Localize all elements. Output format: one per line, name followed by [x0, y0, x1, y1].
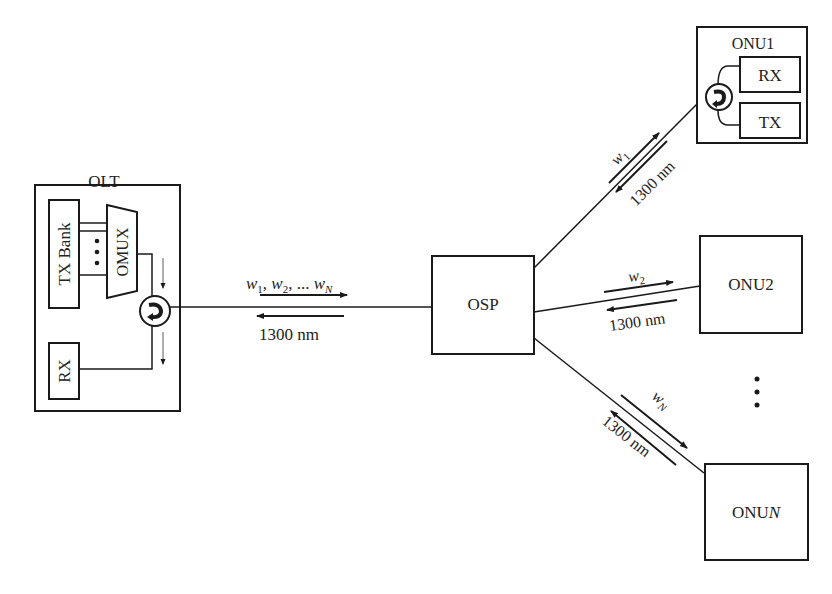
feeder-fiber: w1, w2, ... wN 1300 nm: [170, 274, 432, 344]
ellipsis-dots-icon: [755, 377, 760, 408]
onu2-label: ONU2: [728, 275, 773, 294]
branch2-upstream-label: 1300 nm: [608, 309, 667, 334]
dot-icon: [95, 261, 100, 266]
onu2: ONU2: [700, 236, 802, 333]
dot-icon: [95, 250, 100, 255]
branchN-upstream-label: 1300 nm: [599, 412, 654, 460]
onu1-rx-label: RX: [758, 66, 782, 85]
branch1-upstream-label: 1300 nm: [626, 157, 678, 209]
onu1: ONU1 RX TX: [697, 27, 807, 143]
feeder-downstream-label: w1, w2, ... wN: [246, 274, 333, 295]
olt-tx-bank-label: TX Bank: [55, 222, 74, 285]
onun: ONUN: [705, 464, 808, 560]
branch-onu1: w1 1300 nm: [534, 104, 697, 268]
branch-onun: wN 1300 nm: [534, 338, 704, 473]
osp: OSP: [432, 256, 534, 354]
wdm-pon-diagram: OLT TX Bank OMUX RX: [0, 0, 832, 594]
onu1-label: ONU1: [732, 35, 775, 52]
branchN-downstream-label: wN: [647, 387, 674, 414]
olt-rx-label: RX: [55, 359, 74, 383]
onu1-tx-label: TX: [759, 113, 782, 132]
osp-label: OSP: [467, 295, 498, 314]
onun-label: ONUN: [732, 503, 782, 522]
onu1-circulator-icon: [706, 84, 732, 110]
branch-onu2: w2 1300 nm: [534, 266, 700, 334]
feeder-upstream-label: 1300 nm: [259, 325, 319, 344]
olt-circulator-icon: [140, 296, 170, 326]
olt-omux-label: OMUX: [114, 227, 131, 276]
branch1-downstream-label: w1: [607, 145, 633, 171]
dot-icon: [95, 239, 100, 244]
branch2-downstream-label: w2: [627, 266, 646, 288]
olt: OLT TX Bank OMUX RX: [35, 172, 180, 411]
olt-title: OLT: [88, 172, 120, 191]
